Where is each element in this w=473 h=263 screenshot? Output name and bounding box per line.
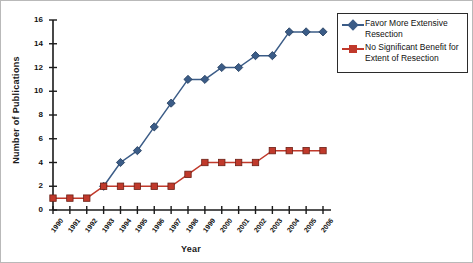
legend-key-red-square	[341, 43, 365, 54]
axes	[53, 20, 331, 210]
data-point-marker	[286, 147, 292, 153]
data-point-marker	[302, 28, 310, 36]
legend-label-favor-resection: Favor More Extensive Resection	[365, 18, 448, 39]
y-tick-label: 8	[23, 110, 43, 119]
data-point-marker	[168, 183, 174, 189]
data-point-marker	[319, 28, 327, 36]
data-point-marker	[219, 159, 225, 165]
legend-item-no-benefit: No Significant Benefit for Extent of Res…	[341, 42, 464, 63]
data-point-marker	[235, 159, 241, 165]
y-tick-label: 4	[23, 158, 43, 167]
data-point-marker	[84, 195, 90, 201]
legend-key-blue-diamond	[341, 19, 365, 30]
data-point-marker	[100, 183, 106, 189]
legend-label-line2: Resection	[365, 29, 403, 39]
data-point-marker	[134, 183, 140, 189]
legend-item-favor-resection: Favor More Extensive Resection	[341, 18, 464, 39]
data-point-marker	[67, 195, 73, 201]
data-point-marker	[303, 147, 309, 153]
data-point-marker	[185, 171, 191, 177]
data-point-marker	[50, 195, 56, 201]
y-tick-label: 6	[23, 134, 43, 143]
y-tick-label: 2	[23, 181, 43, 190]
data-point-marker	[269, 147, 275, 153]
y-tick-label: 12	[23, 63, 43, 72]
legend-label-line1: No Significant Benefit for	[365, 42, 459, 52]
chart-legend: Favor More Extensive Resection No Signif…	[337, 13, 468, 73]
legend-label-line1: Favor More Extensive	[365, 18, 448, 28]
data-point-marker	[202, 159, 208, 165]
data-point-marker	[117, 183, 123, 189]
y-tick-label: 10	[23, 86, 43, 95]
data-point-marker	[252, 159, 258, 165]
data-point-marker	[320, 147, 326, 153]
data-point-marker	[151, 183, 157, 189]
legend-label-no-benefit: No Significant Benefit for Extent of Res…	[365, 42, 459, 63]
y-tick-label: 16	[23, 15, 43, 24]
data-series	[50, 28, 327, 202]
y-tick-label: 0	[23, 205, 43, 214]
legend-label-line2: Extent of Resection	[365, 53, 439, 63]
y-tick-label: 14	[23, 39, 43, 48]
chart-frame: Number of Publications Year 024681012141…	[0, 0, 473, 263]
